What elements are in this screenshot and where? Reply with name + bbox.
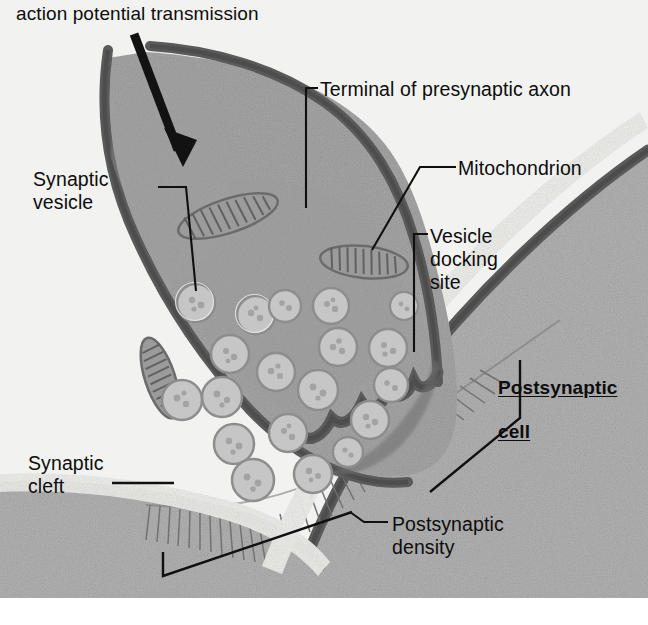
synaptic-vesicle	[319, 328, 357, 366]
synaptic-vesicle	[202, 377, 242, 417]
synaptic-vesicle	[269, 290, 301, 322]
synaptic-vesicle	[294, 455, 332, 493]
synaptic-vesicle	[351, 401, 389, 439]
synaptic-vesicle	[232, 459, 274, 501]
label-terminal-of-presynaptic-axon: Terminal of presynaptic axon	[320, 78, 571, 101]
label-action-potential: action potential transmission	[16, 2, 259, 25]
synaptic-vesicle	[369, 329, 407, 367]
label-postsynaptic-cell-line1: Postsynaptic	[498, 377, 617, 398]
label-postsynaptic-cell-line2: cell	[498, 421, 530, 442]
label-synaptic-vesicle: Synaptic vesicle	[33, 168, 109, 214]
synapse-illustration: action potential transmission Terminal o…	[0, 0, 648, 598]
label-synaptic-cleft: Synaptic cleft	[28, 452, 104, 498]
label-postsynaptic-density: Postsynaptic density	[392, 513, 504, 559]
synaptic-vesicle	[269, 414, 307, 452]
synaptic-vesicle	[214, 424, 254, 464]
synaptic-vesicle	[257, 353, 295, 391]
label-vesicle-docking-site: Vesicle docking site	[430, 225, 498, 294]
synaptic-vesicle	[333, 437, 363, 467]
label-postsynaptic-cell: Postsynaptic cell	[498, 355, 617, 443]
synaptic-vesicle	[298, 370, 338, 410]
figure-canvas: action potential transmission Terminal o…	[0, 0, 648, 625]
synaptic-vesicle	[162, 380, 202, 420]
synaptic-vesicle	[211, 335, 249, 373]
label-mitochondrion: Mitochondrion	[458, 157, 582, 180]
synaptic-vesicle	[374, 368, 408, 402]
synaptic-vesicle	[313, 288, 349, 324]
